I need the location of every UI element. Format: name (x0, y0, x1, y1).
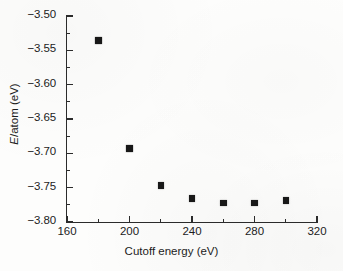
x-tick-label: 320 (297, 225, 337, 237)
x-axis-title: Cutoff energy (eV) (0, 245, 343, 257)
x-tick-label: 280 (235, 225, 275, 237)
x-tick-label: 200 (110, 225, 150, 237)
y-axis-title-symbol: E (8, 137, 20, 145)
data-point-marker (95, 37, 102, 44)
data-point-marker (220, 200, 227, 207)
plot-area (67, 16, 317, 222)
x-tick-label: 240 (172, 225, 212, 237)
data-point-marker (283, 197, 290, 204)
y-tick-label: −3.75 (12, 180, 56, 192)
y-axis-title: E/atom (eV) (8, 54, 20, 174)
x-tick-label: 160 (47, 225, 87, 237)
y-tick-label: −3.55 (12, 42, 56, 54)
y-axis-title-rest: /atom (eV) (8, 83, 20, 137)
y-tick-label: −3.50 (12, 8, 56, 20)
data-point-marker (126, 145, 133, 152)
data-point-marker (189, 195, 196, 202)
data-point-marker (158, 182, 165, 189)
chart-figure: −3.50−3.55−3.60−3.65−3.70−3.75−3.80 1602… (0, 0, 343, 271)
data-point-marker (251, 200, 258, 207)
